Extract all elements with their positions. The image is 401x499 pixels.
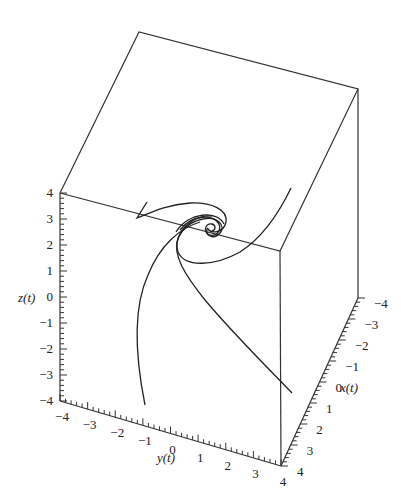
y-tick-label: 1 [197,450,204,465]
y-tick-label: −2 [110,425,124,440]
z-tick-label: 2 [47,237,54,252]
x-tick-label: 2 [316,422,323,437]
y-axis-label: y(t) [155,450,175,465]
trajectory-1 [137,222,200,405]
x-axis-label: x(t) [339,380,358,395]
z-axis-label: z(t) [17,290,35,305]
trajectories [137,188,292,405]
z-tick-label: −4 [39,393,53,408]
x-tick-label: −4 [374,296,388,311]
z-tick-label: −2 [39,341,53,356]
z-tick-label: 4 [47,185,54,200]
trajectory-2 [177,216,292,393]
z-tick-label: 1 [47,263,54,278]
trajectory-4 [177,188,291,263]
z-tick-label: −1 [39,315,53,330]
z-axis: 43210−1−2−3−4 [39,185,67,408]
x-tick-label: 3 [307,443,314,458]
bounding-box [60,32,358,466]
x-tick-label: 1 [326,401,333,416]
x-tick-label: −2 [355,338,369,353]
x-tick-label: −1 [345,359,359,374]
3d-phase-plot: 43210−1−2−3−4 −4−3−2−101234 −4−3−2−10123… [0,0,401,499]
y-tick-label: 2 [225,458,232,473]
x-tick-label: −3 [364,317,378,332]
z-tick-label: 0 [47,289,54,304]
x-axis: −4−3−2−101234 [281,296,388,479]
y-tick-label: 4 [280,474,287,489]
x-tick-label: 4 [297,464,304,479]
z-tick-label: 3 [47,211,54,226]
y-tick-label: −3 [83,417,97,432]
y-tick-label: −1 [138,433,152,448]
y-tick-label: 3 [252,466,259,481]
z-tick-label: −3 [39,367,53,382]
y-tick-label: −4 [55,409,69,424]
y-axis: −4−3−2−101234 [55,394,287,489]
